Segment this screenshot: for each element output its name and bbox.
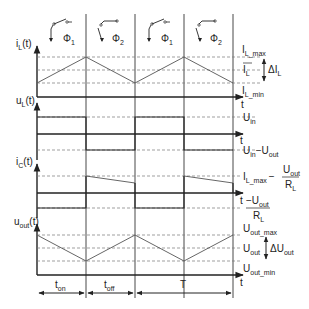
y-axis-label: uout(t) (14, 216, 39, 229)
svg-text:RL: RL (253, 210, 264, 223)
svg-text:RL: RL (285, 179, 296, 192)
plot-output-voltage: uout(t) t Uout_max Uout Uout_min ΔUout (14, 216, 294, 288)
capacitor-current-waveform (37, 176, 86, 208)
delta-label: ΔIL (268, 64, 281, 77)
phase-header-4: Φ2 (196, 20, 222, 46)
svg-text:IL_max−: IL_max− (243, 171, 275, 185)
svg-text:Uout: Uout (283, 164, 300, 177)
level-label-min: Uout_min (243, 263, 275, 277)
svg-text:−Uout: −Uout (246, 195, 269, 208)
y-axis-label: iC(t) (16, 156, 33, 169)
x-axis-label: t (240, 195, 243, 206)
y-axis-label: uL(t) (16, 95, 35, 108)
x-axis-label: t (240, 277, 243, 288)
plot-capacitor-current: iC(t) t IL_max− Uout RL −Uout RL (16, 156, 300, 223)
level-label-min: IL_min (242, 85, 264, 99)
level-label-max: Uout_max (243, 223, 278, 237)
level-label-bottom: −Uout RL (246, 195, 270, 223)
x-axis-label: t (241, 99, 244, 110)
phase-header-2: Φ2 (98, 20, 124, 46)
level-label-max: IL_max (242, 44, 266, 58)
buck-converter-waveform-diagram: Φ1 Φ2 Φ1 Φ2 (0, 0, 309, 309)
phase-label: Φ2 (210, 33, 222, 46)
phase-separators (86, 14, 233, 298)
toff-label: toff (104, 279, 114, 292)
level-label-avg: IL (243, 63, 252, 77)
plot-inductor-voltage: uL(t) t Uin Uin−Uout (16, 95, 279, 160)
plot-inductor-current: iL(t) t IL_max IL IL_min ΔIL (16, 38, 281, 110)
phase-label: Φ2 (112, 33, 124, 46)
period-label: T (180, 279, 186, 290)
phase-label: Φ1 (63, 33, 75, 46)
level-label-avg: Uout (243, 243, 260, 256)
level-label-uin-minus-uout: Uin−Uout (243, 145, 279, 158)
phase-label: Φ1 (161, 33, 173, 46)
ton-label: ton (55, 279, 66, 292)
level-label-top: IL_max− Uout RL (243, 164, 300, 192)
phase-header-3: Φ1 (147, 19, 173, 46)
phase-header-1: Φ1 (49, 19, 75, 46)
delta-label: ΔUout (270, 243, 294, 256)
level-label-uin: Uin (243, 112, 256, 125)
y-axis-label: iL(t) (16, 38, 32, 51)
svg-text:IL: IL (243, 64, 250, 77)
